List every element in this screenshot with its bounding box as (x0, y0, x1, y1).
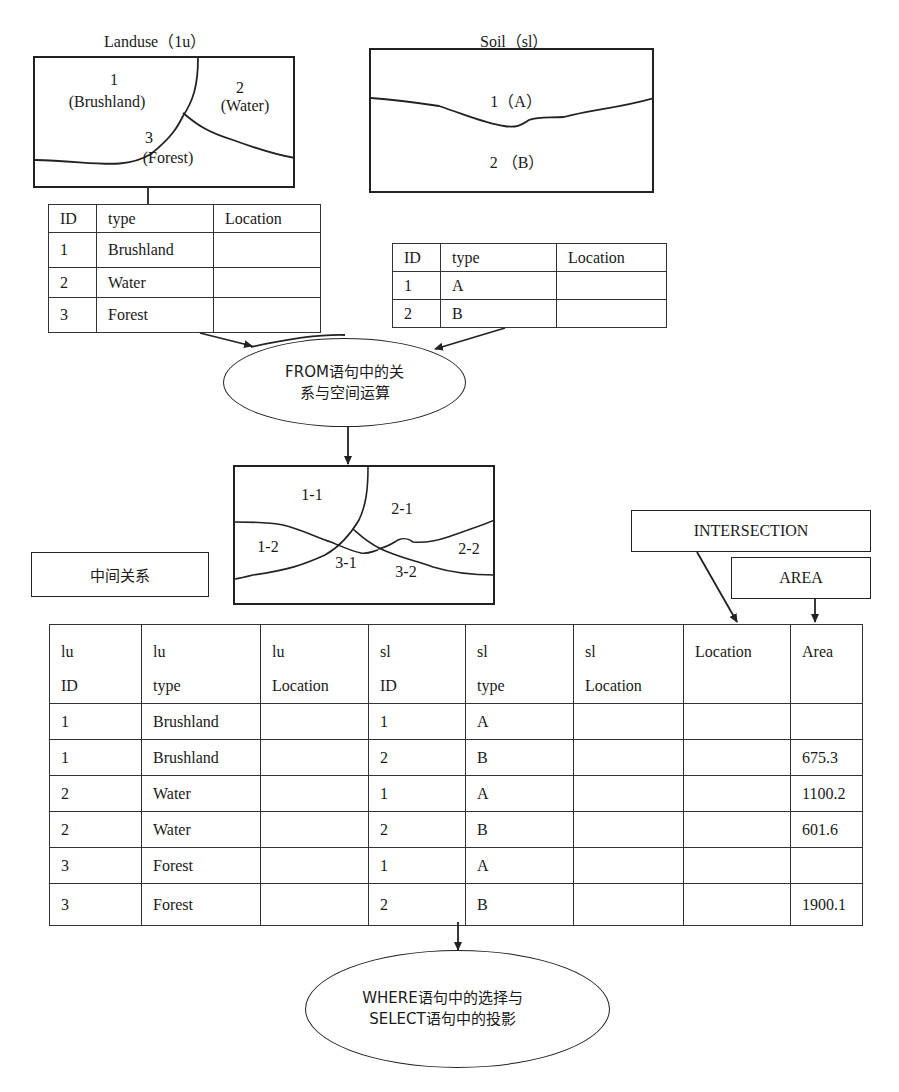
cell: Water (97, 268, 214, 298)
overlay-boundaries (233, 465, 495, 605)
landuse-region-1-id: 1 (104, 70, 124, 90)
header-cell-lu-id: luID (50, 625, 142, 704)
cell (261, 704, 369, 740)
cell (557, 272, 667, 300)
cell: 3 (50, 884, 142, 926)
cell: Brushland (142, 740, 261, 776)
cell: 675.3 (791, 740, 863, 776)
header-cell: ID (49, 205, 97, 233)
cell: 2 (369, 884, 466, 926)
where-operation-line2: SELECT语句中的投影 (369, 1009, 545, 1030)
cell: 1 (50, 740, 142, 776)
overlay-region-2-1: 2-1 (385, 499, 419, 519)
header-line: ID (380, 677, 397, 694)
landuse-region-2-id: 2 (230, 78, 250, 98)
header-cell-sl-location: slLocation (574, 625, 684, 704)
cell (214, 233, 321, 268)
cell: A (466, 848, 574, 884)
header-line: Area (802, 643, 833, 660)
cell (557, 300, 667, 328)
cell: 601.6 (791, 812, 863, 848)
cell: Brushland (97, 233, 214, 268)
cell (261, 884, 369, 926)
header-cell-sl-type: sltype (466, 625, 574, 704)
cell: 1 (393, 272, 441, 300)
header-cell-lu-type: lutype (142, 625, 261, 704)
cell (261, 740, 369, 776)
cell (574, 884, 684, 926)
cell: 2 (369, 812, 466, 848)
header-line: ID (61, 677, 78, 694)
cell (574, 812, 684, 848)
table-row: 3 Forest (49, 298, 321, 333)
cell (574, 776, 684, 812)
table-row: 1 Brushland (49, 233, 321, 268)
cell: 2 (50, 812, 142, 848)
cell (574, 740, 684, 776)
cell: 2 (393, 300, 441, 328)
cell: Forest (142, 848, 261, 884)
landuse-boundaries (33, 56, 295, 188)
intermediate-relation-table: luID lutype luLocation slID sltype slLoc… (49, 624, 863, 926)
header-line: lu (272, 643, 284, 660)
table-header-row: ID type Location (49, 205, 321, 233)
cell: A (441, 272, 557, 300)
cell: Forest (142, 884, 261, 926)
header-line: sl (380, 643, 391, 660)
cell (684, 884, 791, 926)
table-row: 2 Water 2 B 601.6 (50, 812, 863, 848)
cell (791, 848, 863, 884)
header-line: sl (477, 643, 488, 660)
header-line: lu (61, 643, 73, 660)
cell: Water (142, 812, 261, 848)
intersection-function-box: INTERSECTION (631, 510, 871, 552)
overlay-map: 1-1 2-1 1-2 3-1 3-2 2-2 (233, 465, 495, 605)
overlay-region-1-1: 1-1 (295, 485, 329, 505)
cell: Forest (97, 298, 214, 333)
table-row: 1 A (393, 272, 667, 300)
cell: 1 (369, 776, 466, 812)
table-header-row: ID type Location (393, 244, 667, 272)
soil-table: ID type Location 1 A 2 B (392, 243, 667, 328)
overlay-region-3-2: 3-2 (389, 562, 423, 582)
cell: B (466, 884, 574, 926)
landuse-map: 1 (Brushland) 2 (Water) 3 (Forest) (33, 56, 295, 188)
cell: 3 (49, 298, 97, 333)
cell (684, 740, 791, 776)
table-row: 3 Forest 1 A (50, 848, 863, 884)
cell: 1 (49, 233, 97, 268)
cell (214, 268, 321, 298)
soil-region-1-label: 1（A） (481, 92, 551, 112)
landuse-region-2-name: (Water) (210, 96, 280, 116)
header-cell-lu-location: luLocation (261, 625, 369, 704)
cell (684, 848, 791, 884)
cell (261, 776, 369, 812)
header-line: Location (585, 677, 642, 694)
where-operation-line1: WHERE语句中的选择与 (362, 988, 553, 1009)
header-cell-location: Location (684, 625, 791, 704)
header-line: type (477, 677, 505, 694)
landuse-title: Landuse（1u） (104, 28, 206, 52)
landuse-region-3-name: (Forest) (133, 148, 203, 168)
table-row: 2 B (393, 300, 667, 328)
overlay-region-1-2: 1-2 (251, 537, 285, 557)
cell: 1 (50, 704, 142, 740)
landuse-region-1-name: (Brushland) (57, 92, 157, 112)
table-row: 1 Brushland 2 B 675.3 (50, 740, 863, 776)
cell: 1100.2 (791, 776, 863, 812)
overlay-region-3-1: 3-1 (329, 553, 363, 573)
table-header-row: luID lutype luLocation slID sltype slLoc… (50, 625, 863, 704)
header-cell: Location (214, 205, 321, 233)
cell (684, 704, 791, 740)
cell (574, 704, 684, 740)
header-cell-area: Area (791, 625, 863, 704)
cell: 1 (369, 704, 466, 740)
cell: 2 (49, 268, 97, 298)
area-function-box: AREA (731, 557, 871, 599)
cell (261, 848, 369, 884)
header-line: Location (695, 643, 752, 660)
cell: A (466, 704, 574, 740)
header-cell: type (441, 244, 557, 272)
cell: 1900.1 (791, 884, 863, 926)
cell: Water (142, 776, 261, 812)
